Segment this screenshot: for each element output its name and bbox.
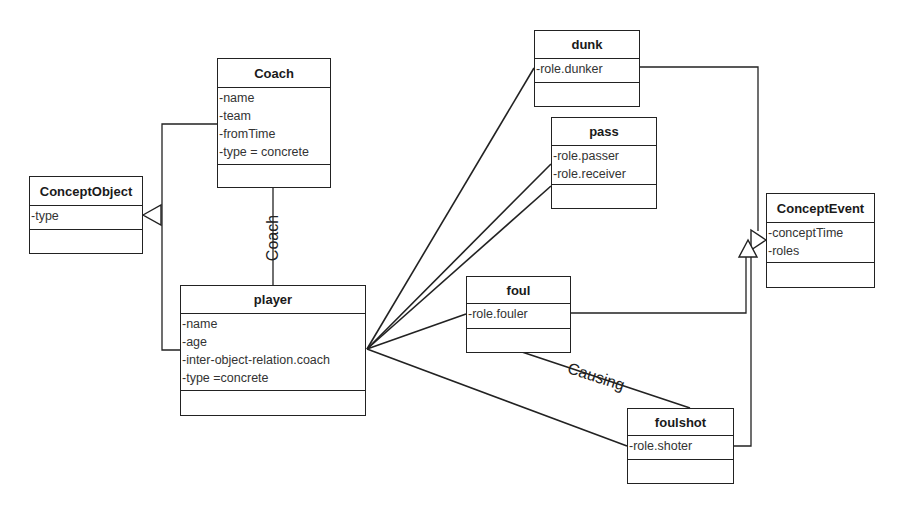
class-attributes: -role.passer -role.receiver <box>552 146 656 185</box>
attribute: -name <box>182 315 365 333</box>
class-name: foul <box>467 277 570 304</box>
class-coach[interactable]: Coach -name -team -fromTime -type = conc… <box>217 58 331 188</box>
attribute: -type =concrete <box>182 369 365 387</box>
class-attributes: -role.shoter <box>628 436 733 460</box>
class-attributes: -role.dunker <box>535 59 639 83</box>
attribute: -role.passer <box>553 147 656 165</box>
attribute: -role.dunker <box>536 60 639 78</box>
class-foul[interactable]: foul -role.fouler <box>466 276 571 353</box>
generalization-coach-conceptobject <box>162 124 217 225</box>
class-dunk[interactable]: dunk -role.dunker <box>534 30 640 107</box>
class-foulshot[interactable]: foulshot -role.shoter <box>627 408 734 484</box>
attribute: -type = concrete <box>219 143 330 161</box>
class-player[interactable]: player -name -age -inter-object-relation… <box>180 285 366 416</box>
attribute: -inter-object-relation.coach <box>182 351 365 369</box>
class-attributes: -role.fouler <box>467 304 570 329</box>
attribute: -role.fouler <box>468 305 570 323</box>
attribute: -role.receiver <box>553 165 656 183</box>
class-attributes: -type <box>30 206 142 230</box>
attribute: -name <box>219 89 330 107</box>
class-name: player <box>181 286 365 314</box>
inheritance-arrow-conceptobject <box>143 205 161 225</box>
class-name: ConceptObject <box>30 177 142 206</box>
class-name: dunk <box>535 31 639 59</box>
association-label-coach: Coach <box>264 215 282 261</box>
attribute: -roles <box>768 242 874 260</box>
class-attributes: -name -age -inter-object-relation.coach … <box>181 314 365 391</box>
attribute: -age <box>182 333 365 351</box>
class-name: foulshot <box>628 409 733 436</box>
attribute: -conceptTime <box>768 224 874 242</box>
class-pass[interactable]: pass -role.passer -role.receiver <box>551 117 657 209</box>
attribute: -type <box>31 207 142 225</box>
class-conceptobject[interactable]: ConceptObject -type <box>29 176 143 254</box>
role-line-foul <box>367 314 466 349</box>
class-name: ConceptEvent <box>767 194 874 223</box>
role-line-foulshot <box>367 349 627 446</box>
inheritance-arrow-conceptevent-right <box>751 230 766 250</box>
generalization-player-conceptobject <box>162 225 180 350</box>
class-name: pass <box>552 118 656 146</box>
generalization-foul-conceptevent <box>570 257 746 313</box>
attribute: -fromTime <box>219 125 330 143</box>
attribute: -team <box>219 107 330 125</box>
class-conceptevent[interactable]: ConceptEvent -conceptTime -roles <box>766 193 875 288</box>
attribute: -role.shoter <box>629 437 733 455</box>
class-attributes: -conceptTime -roles <box>767 223 874 263</box>
class-name: Coach <box>218 59 330 88</box>
class-attributes: -name -team -fromTime -type = concrete <box>218 88 330 165</box>
generalization-foulshot-conceptevent <box>733 257 751 446</box>
